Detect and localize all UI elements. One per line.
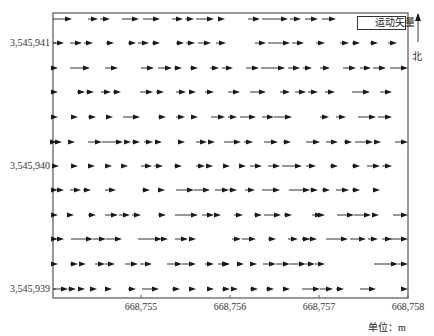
- vector-arrow-icon: [159, 114, 166, 119]
- vector-arrow-icon: [401, 236, 408, 241]
- vector-field-chart: [0, 0, 434, 336]
- vector-arrow-icon: [189, 261, 196, 266]
- vector-arrow-icon: [134, 212, 141, 217]
- vector-arrow-icon: [236, 212, 243, 217]
- motion-vectors: [50, 16, 408, 291]
- vector-arrow-icon: [175, 65, 182, 70]
- vector-arrow-icon: [259, 89, 266, 94]
- vector-arrow-icon: [129, 40, 136, 45]
- vector-arrow-icon: [78, 286, 85, 291]
- vector-arrow-icon: [255, 212, 262, 217]
- vector-arrow-icon: [271, 139, 278, 144]
- vector-arrow-icon: [189, 286, 196, 291]
- vector-arrow-icon: [79, 261, 86, 266]
- vector-arrow-icon: [108, 261, 115, 266]
- plot-frame: [53, 13, 408, 298]
- vector-arrow-icon: [342, 187, 349, 192]
- vector-arrow-icon: [61, 286, 68, 291]
- vector-arrow-icon: [267, 114, 274, 119]
- vector-arrow-icon: [155, 236, 162, 241]
- vector-arrow-icon: [401, 212, 408, 217]
- vector-arrow-icon: [226, 65, 233, 70]
- vector-arrow-icon: [51, 89, 58, 94]
- vector-arrow-icon: [153, 16, 160, 21]
- x-tick-label-668756: 668,756: [200, 301, 260, 312]
- vector-arrow-icon: [269, 261, 276, 266]
- vector-arrow-icon: [366, 139, 373, 144]
- vector-arrow-icon: [145, 163, 152, 168]
- vector-arrow-icon: [158, 187, 165, 192]
- vector-arrow-icon: [230, 187, 237, 192]
- vector-arrow-icon: [55, 139, 62, 144]
- vector-arrow-icon: [51, 261, 58, 266]
- vector-arrow-icon: [124, 139, 131, 144]
- vector-arrow-icon: [191, 65, 198, 70]
- vector-arrow-icon: [253, 16, 260, 21]
- vector-arrow-icon: [74, 187, 81, 192]
- vector-arrow-icon: [68, 139, 75, 144]
- vector-arrow-icon: [251, 286, 258, 291]
- vector-arrow-icon: [57, 40, 64, 45]
- vector-arrow-icon: [372, 212, 379, 217]
- vector-arrow-icon: [308, 261, 315, 266]
- vector-arrow-icon: [329, 16, 336, 21]
- vector-arrow-icon: [313, 286, 320, 291]
- vector-arrow-icon: [212, 65, 219, 70]
- vector-arrow-icon: [390, 40, 397, 45]
- vector-arrow-icon: [345, 139, 352, 144]
- vector-arrow-icon: [143, 187, 150, 192]
- vector-arrow-icon: [318, 212, 325, 217]
- vector-arrow-icon: [129, 286, 136, 291]
- vector-arrow-icon: [111, 212, 118, 217]
- vector-arrow-icon: [285, 114, 292, 119]
- vector-arrow-icon: [71, 261, 78, 266]
- vector-arrow-icon: [222, 187, 229, 192]
- vector-arrow-icon: [318, 261, 325, 266]
- vector-arrow-icon: [371, 40, 378, 45]
- vector-arrow-icon: [88, 163, 95, 168]
- vector-arrow-icon: [285, 212, 292, 217]
- vector-arrow-icon: [250, 261, 257, 266]
- vector-arrow-icon: [223, 286, 230, 291]
- vector-arrow-icon: [331, 163, 338, 168]
- vector-arrow-icon: [86, 236, 93, 241]
- vector-arrow-icon: [208, 139, 215, 144]
- vector-arrow-icon: [259, 40, 266, 45]
- vector-arrow-icon: [109, 187, 116, 192]
- x-tick-label-668757: 668,757: [289, 301, 349, 312]
- vector-arrow-icon: [233, 89, 240, 94]
- vector-arrow-icon: [219, 40, 226, 45]
- vector-arrow-icon: [323, 65, 330, 70]
- vector-arrow-icon: [176, 16, 183, 21]
- vector-arrow-icon: [178, 139, 185, 144]
- vector-arrow-icon: [204, 40, 211, 45]
- vector-arrow-icon: [207, 286, 214, 291]
- vector-arrow-icon: [303, 187, 310, 192]
- x-tick-label-668755: 668,755: [111, 301, 171, 312]
- vector-arrow-icon: [114, 89, 121, 94]
- vector-arrow-icon: [273, 163, 280, 168]
- vector-arrow-icon: [71, 163, 78, 168]
- vector-arrow-icon: [106, 114, 113, 119]
- vector-arrow-icon: [401, 65, 408, 70]
- vector-arrow-icon: [188, 40, 195, 45]
- vector-arrow-icon: [191, 114, 198, 119]
- vector-arrow-icon: [322, 114, 329, 119]
- vector-arrow-icon: [313, 139, 320, 144]
- vector-arrow-icon: [57, 187, 64, 192]
- vector-arrow-icon: [133, 114, 140, 119]
- vector-arrow-icon: [131, 261, 138, 266]
- vector-arrow-icon: [249, 114, 256, 119]
- vector-arrow-icon: [328, 89, 335, 94]
- vector-arrow-icon: [309, 163, 316, 168]
- vector-arrow-icon: [175, 163, 182, 168]
- vector-arrow-icon: [349, 65, 356, 70]
- vector-arrow-icon: [337, 286, 344, 291]
- legend-box: 运动矢量: [357, 16, 406, 30]
- vector-arrow-icon: [246, 139, 253, 144]
- vector-arrow-icon: [87, 89, 94, 94]
- vector-arrow-icon: [189, 236, 196, 241]
- vector-arrow-icon: [51, 65, 58, 70]
- vector-arrow-icon: [283, 261, 290, 266]
- vector-arrow-icon: [369, 114, 376, 119]
